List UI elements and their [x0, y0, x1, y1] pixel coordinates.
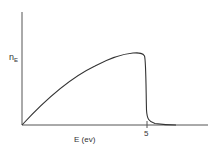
y-axis-label: nE — [9, 52, 18, 63]
distribution-curve — [22, 53, 176, 125]
x-axis-label: E (ev) — [74, 135, 96, 144]
x-tick-label-5: 5 — [144, 129, 149, 138]
energy-distribution-chart: nE E (ev) 5 — [0, 0, 213, 152]
